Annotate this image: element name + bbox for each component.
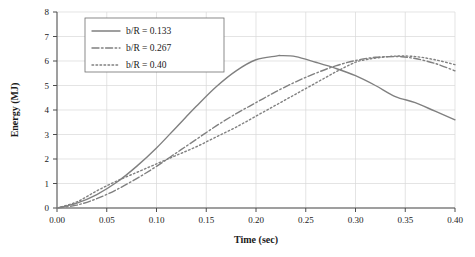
y-tick-label: 8 [45,7,50,17]
y-tick-label: 2 [45,154,50,164]
legend-label-2: b/R = 0.40 [126,60,167,70]
x-tick-labels: 0.000.050.100.150.200.250.300.350.40 [49,215,463,225]
x-axis-label: Time (sec) [234,234,278,246]
y-tick-label: 5 [45,81,50,91]
x-tick-label: 0.15 [198,215,214,225]
y-tick-label: 7 [45,32,50,42]
legend: b/R = 0.133b/R = 0.267b/R = 0.40 [85,18,224,72]
y-tick-label: 0 [45,203,50,213]
x-tick-label: 0.30 [348,215,364,225]
legend-label-1: b/R = 0.267 [126,43,171,53]
chart-svg: 0.000.050.100.150.200.250.300.350.40 012… [0,0,475,257]
x-tick-label: 0.05 [99,215,115,225]
x-tick-label: 0.40 [447,215,463,225]
y-tick-label: 4 [45,105,50,115]
x-tick-label: 0.35 [397,215,413,225]
x-tick-label: 0.10 [149,215,165,225]
y-tick-labels: 012345678 [45,7,50,213]
energy-time-chart: 0.000.050.100.150.200.250.300.350.40 012… [0,0,475,257]
y-tick-label: 6 [45,56,50,66]
y-tick-label: 1 [45,179,50,189]
x-tick-label: 0.20 [248,215,264,225]
y-tick-label: 3 [45,130,50,140]
x-tick-label: 0.00 [49,215,65,225]
y-axis-label: Energy (MJ) [9,83,21,138]
legend-label-0: b/R = 0.133 [126,26,171,36]
x-tick-label: 0.25 [298,215,314,225]
